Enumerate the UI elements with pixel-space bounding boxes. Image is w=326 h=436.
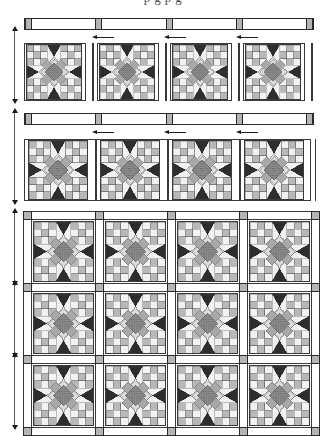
quilt-block-body-r1-c1[interactable] [33,221,94,282]
cornerstone [306,114,313,124]
dimension-section-1 [14,30,15,100]
press-arrow-mid-3-line [240,132,258,133]
press-arrow-top-3 [236,35,241,39]
vertical-sashing-body-4 [311,212,320,428]
cornerstone-body-r3-c2 [167,427,176,436]
cornerstone-body-r2-c3 [239,355,248,364]
cornerstone-body-r0-c3 [239,211,248,220]
quilt-block-body-r2-c1[interactable] [33,293,94,354]
quilt-block-top-4[interactable] [245,44,301,100]
dimension-body-row-3-up-arrow [12,352,18,357]
cornerstone-body-r0-c0 [23,211,32,220]
quilt-block-body-r2-c3[interactable] [177,293,238,354]
vertical-sashing-body-1 [95,212,104,428]
press-arrow-mid-1 [92,130,97,134]
second-sashing-strip [24,113,314,125]
press-arrow-top-1-line [96,37,114,38]
dimension-section-1-down-arrow [12,99,18,104]
vertical-sashing-body-3 [239,212,248,428]
press-arrow-top-3-line [240,37,258,38]
cornerstone-body-r1-c0 [23,283,32,292]
cornerstone-body-r0-c1 [95,211,104,220]
cornerstone-body-r1-c1 [95,283,104,292]
cornerstone [306,19,313,29]
cornerstone-body-r3-c1 [95,427,104,436]
page-title-fragment: p g p g [0,0,326,6]
quilt-block-mid-4[interactable] [244,140,304,200]
press-arrow-mid-2 [164,130,169,134]
cornerstone-body-r0-c4 [311,211,320,220]
cornerstone-body-r3-c4 [311,427,320,436]
cornerstone-body-r3-c0 [23,427,32,436]
vertical-sashing-top-3 [231,43,239,101]
dimension-body-row-1-up-arrow [12,208,18,213]
cornerstone-body-r1-c4 [311,283,320,292]
cornerstone [166,114,173,124]
top-sashing-strip [24,18,314,30]
cornerstone-body-r2-c2 [167,355,176,364]
dimension-body-row-1 [14,212,15,282]
cornerstone-body-r2-c0 [23,355,32,364]
quilt-block-body-r3-c4[interactable] [249,365,310,426]
quilt-block-top-2[interactable] [99,44,155,100]
quilt-block-body-r2-c4[interactable] [249,293,310,354]
vertical-sashing-mid-right [310,139,316,201]
quilt-block-body-r3-c2[interactable] [105,365,166,426]
quilt-block-body-r3-c1[interactable] [33,365,94,426]
vertical-sashing-body-2 [167,212,176,428]
cornerstone-body-r2-c1 [95,355,104,364]
press-arrow-mid-2-line [168,132,186,133]
dimension-body-row-2 [14,284,15,354]
vertical-sashing-top-1 [85,43,93,101]
dimension-body-row-3-down-arrow [12,425,18,430]
vertical-sashing-top-2 [158,43,166,101]
cornerstone [236,114,243,124]
quilt-block-body-r2-c2[interactable] [105,293,166,354]
quilt-block-body-r1-c4[interactable] [249,221,310,282]
dimension-section-2-up-arrow [12,108,18,113]
cornerstone-body-r2-c4 [311,355,320,364]
press-arrow-top-2 [164,35,169,39]
press-arrow-mid-3 [236,130,241,134]
cornerstone-body-r1-c2 [167,283,176,292]
dimension-section-2 [14,112,15,201]
cornerstone [166,19,173,29]
vertical-sashing-body-0 [23,212,32,428]
cornerstone-body-r3-c3 [239,427,248,436]
press-arrow-top-1 [92,35,97,39]
quilt-block-body-r1-c2[interactable] [105,221,166,282]
quilt-block-mid-2[interactable] [100,140,160,200]
press-arrow-top-2-line [168,37,186,38]
press-arrow-mid-1-line [96,132,114,133]
cornerstone [25,19,32,29]
vertical-sashing-top-4 [304,43,312,101]
quilt-block-top-1[interactable] [26,44,82,100]
cornerstone [95,114,102,124]
quilt-block-mid-1[interactable] [28,140,88,200]
cornerstone-body-r1-c3 [239,283,248,292]
dimension-section-1-up-arrow [12,26,18,31]
dimension-section-2-down-arrow [12,200,18,205]
cornerstone [236,19,243,29]
cornerstone [25,114,32,124]
dimension-body-row-3 [14,356,15,426]
cornerstone [95,19,102,29]
dimension-body-row-2-up-arrow [12,280,18,285]
cornerstone-body-r0-c2 [167,211,176,220]
quilt-block-mid-3[interactable] [172,140,232,200]
quilt-block-top-3[interactable] [172,44,228,100]
quilt-block-body-r1-c3[interactable] [177,221,238,282]
quilt-block-body-r3-c3[interactable] [177,365,238,426]
